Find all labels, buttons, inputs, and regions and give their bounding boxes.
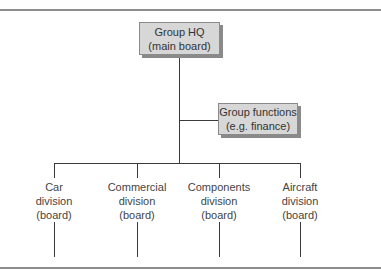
group-functions-subtitle: (e.g. finance) bbox=[226, 119, 290, 133]
division-commercial-type: division bbox=[97, 194, 177, 208]
commercial-drop-line bbox=[137, 163, 138, 178]
group-hq-subtitle: (main board) bbox=[148, 39, 210, 53]
bottom-rule bbox=[0, 267, 381, 269]
components-drop-line bbox=[219, 163, 220, 178]
commercial-lower-line bbox=[137, 222, 138, 257]
division-commercial: Commercial division (board) bbox=[97, 180, 177, 222]
division-car-name: Car bbox=[14, 180, 94, 194]
division-components-name: Components bbox=[179, 180, 259, 194]
division-commercial-board: (board) bbox=[97, 208, 177, 222]
components-lower-line bbox=[219, 222, 220, 257]
aircraft-drop-line bbox=[300, 163, 301, 178]
car-drop-line bbox=[54, 163, 55, 178]
aircraft-lower-line bbox=[300, 222, 301, 257]
division-aircraft-type: division bbox=[260, 194, 340, 208]
division-components: Components division (board) bbox=[179, 180, 259, 222]
top-rule bbox=[0, 9, 381, 11]
group-hq-title: Group HQ bbox=[154, 25, 204, 39]
car-lower-line bbox=[54, 222, 55, 257]
functions-connector bbox=[179, 120, 218, 121]
group-functions-box: Group functions (e.g. finance) bbox=[218, 103, 298, 135]
division-commercial-name: Commercial bbox=[97, 180, 177, 194]
division-aircraft-board: (board) bbox=[260, 208, 340, 222]
division-car-board: (board) bbox=[14, 208, 94, 222]
division-components-type: division bbox=[179, 194, 259, 208]
division-components-board: (board) bbox=[179, 208, 259, 222]
division-car-type: division bbox=[14, 194, 94, 208]
group-hq-box: Group HQ (main board) bbox=[139, 22, 220, 55]
division-aircraft-name: Aircraft bbox=[260, 180, 340, 194]
group-functions-title: Group functions bbox=[219, 105, 297, 119]
division-bus bbox=[54, 163, 301, 164]
division-car: Car division (board) bbox=[14, 180, 94, 222]
trunk-connector bbox=[179, 58, 180, 164]
division-aircraft: Aircraft division (board) bbox=[260, 180, 340, 222]
